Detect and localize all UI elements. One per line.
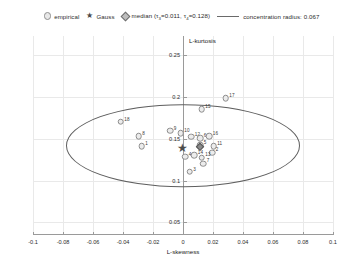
point-label: 9 — [174, 125, 177, 130]
chart-legend: empirical ★ Gauss median (τ3=0.011, τ4=0… — [0, 8, 363, 24]
x-tick-label: -0.06 — [87, 239, 100, 245]
empirical-point-marker[interactable] — [167, 128, 174, 135]
x-tick — [153, 232, 154, 236]
empirical-point-marker[interactable] — [138, 143, 145, 150]
point-label: 1 — [145, 140, 148, 145]
x-tick-label: 0.06 — [268, 239, 279, 245]
x-tick-label: 0.1 — [329, 239, 337, 245]
point-label: 17 — [229, 93, 234, 98]
x-tick — [213, 232, 214, 236]
y-tick-label: 0.25 — [169, 52, 180, 58]
x-axis-title: L-skewness — [33, 248, 333, 255]
x-tick — [123, 232, 124, 236]
x-tick-label: 0.08 — [298, 239, 309, 245]
y-tick — [183, 55, 187, 56]
x-tick — [183, 232, 184, 236]
y-tick — [183, 97, 187, 98]
point-label: 11 — [217, 140, 222, 145]
empirical-point-marker[interactable] — [177, 130, 184, 137]
empirical-point-marker[interactable] — [222, 95, 229, 102]
x-tick — [33, 232, 34, 236]
legend-label-gauss: Gauss — [96, 13, 114, 20]
point-label: 18 — [124, 116, 129, 121]
y-tick — [183, 222, 187, 223]
x-tick-label: 0.04 — [238, 239, 249, 245]
chart-root: empirical ★ Gauss median (τ3=0.011, τ4=0… — [0, 0, 363, 266]
y-axis-title: L-kurtosis — [189, 37, 216, 44]
x-tick-label: -0.02 — [147, 239, 160, 245]
point-label: 13 — [205, 152, 210, 157]
x-tick-label: -0.04 — [117, 239, 130, 245]
x-tick-label: -0.08 — [57, 239, 70, 245]
legend-label-median: median (τ3=0.011, τ4=0.128) — [132, 12, 211, 21]
x-tick — [333, 232, 334, 236]
x-tick — [243, 232, 244, 236]
star-marker-icon: ★ — [86, 13, 93, 19]
x-tick-label: 0.02 — [208, 239, 219, 245]
x-tick — [303, 232, 304, 236]
gridline-vertical — [33, 36, 34, 235]
point-label: 3 — [193, 166, 196, 171]
x-tick-label: 0 — [181, 239, 184, 245]
x-tick — [93, 232, 94, 236]
legend-item-concentration-radius[interactable]: concentration radius: 0.067 — [217, 13, 319, 20]
point-label: 16 — [213, 130, 218, 135]
circle-marker-icon — [44, 12, 52, 20]
point-label: 15 — [205, 103, 210, 108]
y-tick-label: 0.2 — [172, 94, 180, 100]
empirical-point-marker[interactable] — [206, 133, 213, 140]
legend-label-empirical: empirical — [54, 13, 79, 20]
scatter-plot-area: -0.1-0.08-0.06-0.04-0.0200.020.040.060.0… — [33, 36, 333, 235]
empirical-point-marker[interactable] — [135, 133, 142, 140]
legend-label-concentration-radius: concentration radius: 0.067 — [243, 13, 319, 20]
empirical-point-marker[interactable] — [117, 118, 124, 125]
tau4-value: =0.128) — [189, 12, 211, 19]
tau3-value: =0.011, — [161, 12, 184, 19]
x-tick-label: -0.1 — [28, 239, 38, 245]
gridline-vertical — [303, 36, 304, 235]
empirical-point-marker[interactable] — [197, 135, 204, 142]
empirical-point-marker[interactable] — [200, 160, 207, 167]
gridline-vertical — [63, 36, 64, 235]
gauss-star-marker[interactable]: ★ — [177, 142, 188, 154]
point-label: 7 — [207, 158, 210, 163]
line-swatch-icon — [217, 16, 239, 17]
legend-item-median[interactable]: median (τ3=0.011, τ4=0.128) — [122, 12, 211, 21]
legend-item-gauss[interactable]: ★ Gauss — [86, 13, 114, 20]
gridline-vertical — [333, 36, 334, 235]
legend-item-empirical[interactable]: empirical — [44, 12, 80, 20]
diamond-marker-icon — [120, 11, 130, 21]
empirical-point-marker[interactable] — [186, 169, 193, 176]
point-label: 8 — [142, 130, 145, 135]
empirical-point-marker[interactable] — [188, 133, 195, 140]
empirical-point-marker[interactable] — [198, 106, 205, 113]
empirical-point-marker[interactable] — [191, 152, 198, 159]
point-label: 5 — [204, 139, 207, 144]
median-prefix: median ( — [132, 12, 157, 19]
x-tick — [63, 232, 64, 236]
y-tick-label: 0.05 — [169, 219, 180, 225]
point-label: 10 — [184, 128, 189, 133]
x-tick — [273, 232, 274, 236]
point-label: 2 — [216, 147, 219, 152]
